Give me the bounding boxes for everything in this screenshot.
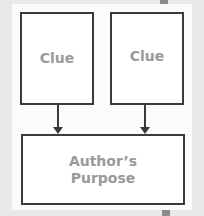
result-label-line1: Author’s (69, 153, 137, 170)
result-label-line2: Purpose (71, 170, 136, 187)
arrow-icon (53, 105, 150, 134)
authors-purpose-box: Author’s Purpose (21, 134, 185, 205)
